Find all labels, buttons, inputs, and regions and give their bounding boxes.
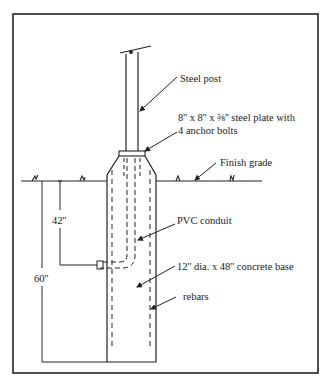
diagram-frame bbox=[13, 14, 318, 373]
steel-post bbox=[120, 46, 151, 151]
finish-grade-line bbox=[21, 175, 262, 181]
dimension-lines bbox=[42, 181, 107, 362]
dimension-60: 60'' bbox=[34, 273, 48, 284]
steel-plate bbox=[119, 151, 145, 156]
label-concrete-base: 12'' dia. x 48'' concrete base bbox=[177, 261, 294, 272]
anchor-bolts bbox=[124, 158, 140, 176]
pvc-conduit bbox=[100, 158, 135, 268]
foundation-diagram: Steel post 8'' x 8'' x ⅜'' steel plate w… bbox=[0, 0, 330, 386]
rebars bbox=[112, 170, 150, 350]
label-anchor-bolts: 4 anchor bolts bbox=[178, 125, 238, 136]
label-steel-post: Steel post bbox=[180, 73, 221, 84]
label-rebars: rebars bbox=[183, 291, 209, 302]
label-steel-plate: 8'' x 8'' x ⅜'' steel plate with bbox=[178, 112, 296, 123]
dimension-42: 42'' bbox=[52, 215, 66, 226]
concrete-base bbox=[107, 156, 156, 362]
label-finish-grade: Finish grade bbox=[220, 157, 273, 168]
label-pvc-conduit: PVC conduit bbox=[177, 215, 232, 226]
